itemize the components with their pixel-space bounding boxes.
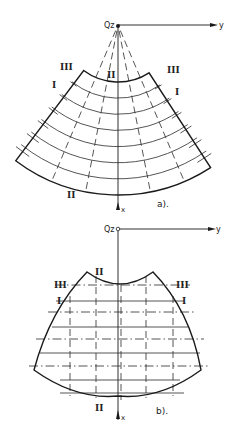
radial-line bbox=[119, 31, 150, 192]
x-axis-label-b: x bbox=[121, 414, 125, 422]
caption-a: a). bbox=[157, 199, 169, 209]
concentric-arc bbox=[21, 145, 206, 179]
caption-b: b). bbox=[156, 406, 168, 416]
y-axis-arrow-b bbox=[208, 227, 216, 231]
label-III-left-a: III bbox=[60, 62, 73, 72]
x-axis-arrow-b bbox=[116, 410, 120, 419]
section-outline-b bbox=[34, 272, 201, 396]
label-II-bottom-a: II bbox=[67, 190, 75, 200]
origin-point-b bbox=[116, 227, 120, 231]
concentric-arc bbox=[52, 107, 179, 131]
concentric-arc bbox=[62, 94, 169, 114]
y-axis-label-a: y bbox=[219, 21, 224, 30]
label-II-top-b: II bbox=[95, 267, 103, 277]
figure-b: Qz y x III I II III I II b). bbox=[29, 225, 221, 422]
figure-a: Qz y x III I II III I II a). bbox=[16, 21, 224, 214]
label-II-top-a: II bbox=[107, 70, 115, 80]
origin-label-b: Qz bbox=[104, 225, 115, 234]
y-axis-label-b: y bbox=[216, 225, 221, 234]
label-III-right-a: III bbox=[167, 65, 180, 75]
origin-point-a bbox=[116, 24, 120, 28]
x-axis-arrow-a bbox=[116, 202, 120, 210]
vertical-lines-b bbox=[70, 276, 173, 400]
radial-lines-a bbox=[16, 31, 211, 192]
label-I-left-b: I bbox=[57, 296, 61, 306]
x-axis-label-a: x bbox=[121, 206, 125, 214]
radial-line bbox=[86, 31, 117, 192]
concentric-arc bbox=[72, 82, 160, 98]
label-III-left-b: III bbox=[54, 280, 67, 290]
origin-label-a: Qz bbox=[104, 21, 115, 30]
label-I-right-b: I bbox=[182, 296, 186, 306]
y-axis-arrow-a bbox=[210, 23, 218, 27]
concentric-arc bbox=[42, 120, 188, 147]
label-I-left-a: I bbox=[52, 80, 56, 90]
diagram-canvas: Qz y x III I II III I II a). bbox=[0, 0, 230, 438]
concentric-arc bbox=[31, 132, 197, 163]
label-II-bottom-b: II bbox=[95, 403, 103, 413]
label-III-right-b: III bbox=[176, 280, 189, 290]
label-I-right-a: I bbox=[175, 87, 179, 97]
